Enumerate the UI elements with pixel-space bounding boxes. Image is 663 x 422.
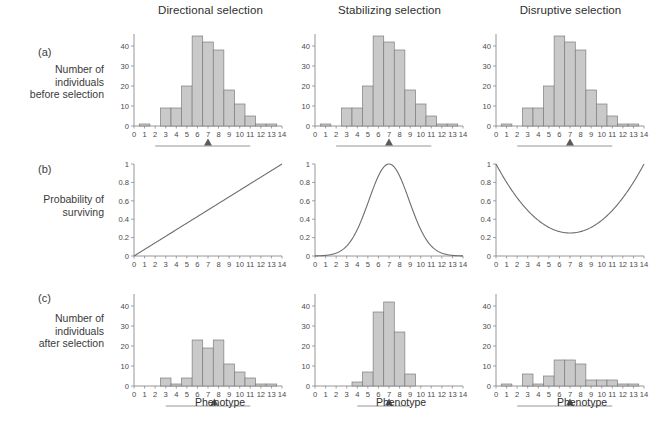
bar	[501, 124, 512, 126]
svg-text:40: 40	[121, 302, 129, 311]
svg-text:8: 8	[216, 130, 220, 139]
svg-text:20: 20	[483, 82, 491, 91]
bar	[160, 378, 171, 386]
svg-text:13: 13	[448, 260, 456, 269]
bar	[373, 312, 384, 386]
bar	[575, 364, 586, 386]
svg-text:11: 11	[246, 260, 254, 269]
svg-text:40: 40	[483, 302, 491, 311]
bar	[182, 86, 193, 126]
svg-text:1: 1	[323, 130, 327, 139]
svg-text:1: 1	[306, 160, 310, 169]
svg-text:12: 12	[257, 130, 265, 139]
svg-text:12: 12	[619, 260, 627, 269]
bar	[544, 376, 555, 386]
bar	[575, 50, 586, 126]
svg-text:7: 7	[568, 260, 572, 269]
bar	[596, 380, 607, 386]
svg-text:0: 0	[487, 122, 491, 131]
svg-text:0.2: 0.2	[118, 233, 129, 242]
bar	[256, 124, 267, 126]
svg-text:1: 1	[142, 130, 146, 139]
plot-b1: 00.20.40.60.8101234567891011121314	[112, 158, 292, 294]
svg-text:1: 1	[504, 260, 508, 269]
bar	[352, 382, 363, 386]
svg-text:0.8: 0.8	[118, 178, 129, 187]
bar	[203, 348, 214, 386]
svg-text:12: 12	[438, 260, 446, 269]
bar	[192, 340, 203, 386]
svg-text:7: 7	[206, 130, 210, 139]
bar	[565, 42, 576, 126]
svg-text:7: 7	[206, 260, 210, 269]
bar	[363, 372, 374, 386]
bar	[426, 116, 437, 126]
column-title-disruptive: Disruptive selection	[478, 4, 663, 16]
bar	[554, 360, 565, 386]
bar	[618, 124, 629, 126]
svg-text:0.4: 0.4	[480, 215, 491, 224]
svg-text:14: 14	[640, 130, 648, 139]
svg-text:5: 5	[185, 130, 189, 139]
bar	[245, 378, 256, 386]
xaxis-title-disruptive: Phenotype	[502, 396, 662, 408]
svg-text:0: 0	[487, 382, 491, 391]
svg-text:10: 10	[483, 362, 491, 371]
bar	[522, 374, 533, 386]
bar	[522, 108, 533, 126]
svg-text:6: 6	[195, 130, 199, 139]
svg-text:11: 11	[608, 130, 616, 139]
svg-text:4: 4	[174, 260, 178, 269]
svg-text:40: 40	[121, 42, 129, 51]
svg-text:5: 5	[366, 260, 370, 269]
bar	[234, 104, 245, 126]
bar	[394, 332, 405, 386]
svg-text:0: 0	[125, 382, 129, 391]
svg-text:0: 0	[306, 382, 310, 391]
svg-text:20: 20	[121, 82, 129, 91]
svg-text:1: 1	[142, 260, 146, 269]
xaxis-title-stabilizing: Phenotype	[321, 396, 481, 408]
svg-text:2: 2	[515, 130, 519, 139]
bar	[245, 116, 256, 126]
svg-text:6: 6	[557, 130, 561, 139]
svg-text:20: 20	[302, 82, 310, 91]
svg-text:13: 13	[629, 260, 637, 269]
svg-text:2: 2	[334, 260, 338, 269]
bar	[266, 124, 277, 126]
selection-types-figure: Directional selection Stabilizing select…	[0, 0, 663, 422]
probability-curve	[134, 164, 282, 256]
bar	[341, 108, 352, 126]
svg-text:0: 0	[125, 122, 129, 131]
plot-a3: 01020304001234567891011121314	[474, 28, 654, 164]
bar	[384, 42, 395, 126]
svg-text:0.4: 0.4	[299, 215, 310, 224]
row-label-before-selection: Number ofindividualsbefore selection	[0, 63, 104, 101]
svg-text:8: 8	[578, 260, 582, 269]
svg-text:5: 5	[547, 130, 551, 139]
svg-text:13: 13	[448, 130, 456, 139]
svg-text:0: 0	[494, 130, 498, 139]
row-letter-a: (a)	[38, 46, 51, 58]
svg-text:0.6: 0.6	[299, 197, 310, 206]
mean-marker-triangle	[566, 139, 574, 146]
bar	[384, 302, 395, 386]
svg-text:0: 0	[487, 252, 491, 261]
svg-text:10: 10	[235, 130, 243, 139]
svg-text:0: 0	[494, 390, 498, 399]
probability-curve	[496, 164, 644, 233]
svg-text:3: 3	[526, 260, 530, 269]
svg-text:10: 10	[597, 130, 605, 139]
bar	[437, 124, 448, 126]
svg-text:11: 11	[608, 260, 616, 269]
plot-b3: 00.20.40.60.8101234567891011121314	[474, 158, 654, 294]
svg-text:8: 8	[578, 130, 582, 139]
bar	[266, 384, 277, 386]
row-label-probability: Probability ofsurviving	[0, 193, 104, 218]
svg-text:0.8: 0.8	[480, 178, 491, 187]
bar	[213, 340, 224, 386]
svg-text:0: 0	[132, 130, 136, 139]
plot-b2: 00.20.40.60.8101234567891011121314	[293, 158, 473, 294]
bar	[394, 50, 405, 126]
svg-text:6: 6	[376, 130, 380, 139]
